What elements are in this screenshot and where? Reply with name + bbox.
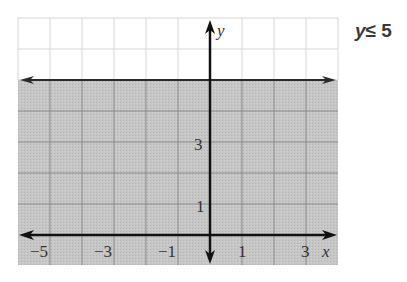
inequality-graph: −5 −3 −1 1 3 x 3 1 y xyxy=(0,0,407,282)
x-tick-label: 3 xyxy=(301,242,310,261)
x-tick-label: −5 xyxy=(30,242,48,261)
x-axis-label: x xyxy=(321,242,330,261)
inequality-label: y≤ 5 xyxy=(355,20,392,42)
y-axis-label: y xyxy=(215,21,225,40)
inequality-operator: ≤ xyxy=(366,20,376,41)
x-tick-label: 1 xyxy=(238,242,247,261)
y-tick-label: 1 xyxy=(196,197,205,216)
inequality-variable: y xyxy=(355,20,366,41)
x-tick-label: −3 xyxy=(94,242,112,261)
y-tick-label: 3 xyxy=(194,135,203,154)
x-tick-label: −1 xyxy=(158,242,176,261)
inequality-value: 5 xyxy=(381,20,392,41)
